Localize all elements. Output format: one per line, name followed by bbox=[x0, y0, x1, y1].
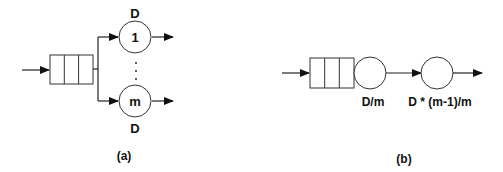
caption-a: (a) bbox=[117, 149, 132, 163]
diagram-b: D/m D * (m-1)/m (b) bbox=[282, 57, 482, 166]
server-1-label: 1 bbox=[131, 30, 138, 45]
server-m-service-label: D bbox=[130, 121, 139, 136]
caption-b: (b) bbox=[396, 152, 411, 166]
queue-a bbox=[50, 55, 93, 84]
server-1-service-label: D bbox=[130, 6, 139, 21]
stage-1-service-label: D/m bbox=[362, 95, 385, 109]
queue-b bbox=[310, 58, 354, 88]
server-m-label: m bbox=[129, 94, 141, 109]
ellipsis-dots bbox=[135, 62, 137, 80]
diagram-a: 1 D m D (a) bbox=[22, 6, 173, 163]
stage-1-server bbox=[354, 57, 386, 89]
stage-2-service-label: D * (m-1)/m bbox=[408, 95, 471, 109]
queueing-diagrams: 1 D m D (a) D/m D * (m-1)/m (b) bbox=[0, 0, 503, 172]
stage-2-server bbox=[421, 57, 453, 89]
